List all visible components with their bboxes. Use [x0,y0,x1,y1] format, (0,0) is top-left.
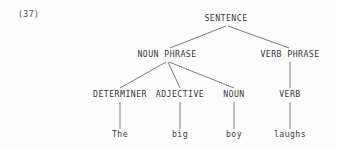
node-noun: NOUN [223,90,245,99]
leaf-the: The [112,130,128,139]
node-adjective: ADJECTIVE [156,90,204,99]
node-determiner: DETERMINER [93,90,147,99]
edge-sentence-noun-phrase [170,26,226,48]
node-sentence: SENTENCE [204,14,247,23]
leaf-laughs: laughs [274,130,306,139]
node-noun-phrase: NOUN PHRASE [137,50,196,59]
node-verb: VERB [279,90,301,99]
node-verb-phrase: VERB PHRASE [260,50,319,59]
leaf-boy: boy [226,130,242,139]
leaf-big: big [172,130,188,139]
syntax-tree-figure: (37) SENTENCE NOUN PHRASE VERB PHRASE DE… [0,0,337,150]
edge-noun-phrase-noun [169,62,234,88]
tree-edges-svg [0,0,337,150]
edge-noun-phrase-determiner [120,62,166,88]
edge-sentence-verb-phrase [228,26,289,48]
